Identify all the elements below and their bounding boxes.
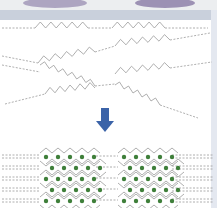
crystal-dot: [164, 166, 168, 170]
crystal-dot: [44, 199, 48, 203]
arrow-shaft: [101, 108, 109, 122]
crystal-dot: [62, 188, 66, 192]
chain-segment: [95, 46, 115, 52]
crystal-dot: [134, 155, 138, 159]
crystal-dot: [50, 188, 54, 192]
crystal-dot: [128, 166, 132, 170]
chain-zigzag: [38, 47, 95, 63]
crystal-dot: [80, 199, 84, 203]
crystal-lattice: [40, 205, 100, 208]
transition-arrow-icon: [96, 108, 114, 132]
crystal-dot: [74, 188, 78, 192]
crystal-dot: [146, 177, 150, 181]
arrow-head: [96, 121, 114, 132]
crystal-dot: [128, 188, 132, 192]
crystal-dot: [44, 155, 48, 159]
crystal-dot: [176, 166, 180, 170]
dish-right: [135, 0, 195, 8]
chain-segment: [160, 105, 198, 118]
crystal-dot: [68, 199, 72, 203]
chain-zigzag: [112, 22, 165, 28]
crystal-dot: [56, 155, 60, 159]
chain-zigzag: [35, 22, 88, 28]
crystal-dot: [98, 188, 102, 192]
amorphous-chains: [2, 22, 212, 118]
crystal-dot: [164, 188, 168, 192]
crystal-dot: [56, 199, 60, 203]
crystal-dot: [92, 155, 96, 159]
crystal-dot: [170, 155, 174, 159]
crystal-dot: [146, 155, 150, 159]
crystal-dot: [152, 166, 156, 170]
crystal-dot: [134, 199, 138, 203]
figure: [0, 0, 217, 208]
crystal-dot: [134, 177, 138, 181]
crystal-dot: [122, 177, 126, 181]
crystal-dot: [170, 199, 174, 203]
chain-segment: [170, 62, 212, 68]
crystal-lattice: [118, 205, 178, 208]
crystal-dot: [80, 155, 84, 159]
chain-segment: [5, 94, 45, 104]
crystal-dot: [152, 188, 156, 192]
ordered-structure: [2, 148, 213, 208]
chain-zigzag: [40, 62, 95, 86]
crystal-dot: [122, 155, 126, 159]
chain-zigzag: [45, 83, 95, 94]
crystal-dot: [98, 166, 102, 170]
crystal-dot: [44, 177, 48, 181]
crystal-dot: [68, 155, 72, 159]
petri-dishes: [23, 0, 195, 8]
crystal-dot: [74, 166, 78, 170]
crystal-dot: [158, 199, 162, 203]
crystal-dot: [86, 166, 90, 170]
crystal-dot: [158, 155, 162, 159]
chain-zigzag: [115, 35, 170, 46]
crystal-dot: [176, 188, 180, 192]
crystal-dot: [80, 177, 84, 181]
dish-left: [23, 0, 87, 8]
crystal-dot: [158, 177, 162, 181]
crystal-dot: [86, 188, 90, 192]
crystal-dot: [92, 177, 96, 181]
crystal-dot: [140, 166, 144, 170]
crystal-dot: [50, 166, 54, 170]
chain-zigzag: [115, 63, 170, 74]
chain-segment: [95, 84, 115, 86]
crystal-dot: [146, 199, 150, 203]
crystal-dot: [92, 199, 96, 203]
chain-zigzag: [115, 82, 160, 105]
crystal-dot: [68, 177, 72, 181]
chain-segment: [2, 65, 40, 72]
crystal-lattice: [40, 148, 100, 153]
crystal-dot: [62, 166, 66, 170]
crystal-dot: [122, 199, 126, 203]
crystal-dot: [56, 177, 60, 181]
diagram-canvas: [0, 0, 217, 208]
crystal-dot: [140, 188, 144, 192]
crystal-lattice: [118, 148, 178, 153]
crystal-dot: [170, 177, 174, 181]
chain-segment: [2, 56, 38, 63]
chain-segment: [170, 33, 210, 40]
